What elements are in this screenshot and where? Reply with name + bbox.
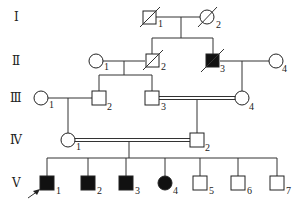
- svg-text:3: 3: [161, 101, 166, 112]
- svg-text:4: 4: [173, 185, 178, 196]
- individual-V-1: 1: [40, 176, 61, 196]
- individual-IV-2: 2: [190, 133, 210, 153]
- individual-V-2: 2: [81, 176, 102, 196]
- individual-II-2: 2: [143, 50, 166, 72]
- svg-text:6: 6: [247, 185, 252, 196]
- svg-text:4: 4: [249, 101, 254, 112]
- generation-label-4: Ⅳ: [10, 133, 23, 147]
- svg-text:1: 1: [158, 18, 163, 29]
- svg-text:1: 1: [104, 61, 109, 72]
- svg-text:2: 2: [107, 101, 112, 112]
- svg-text:3: 3: [135, 185, 140, 196]
- individual-III-1: 1: [34, 91, 54, 110]
- svg-text:2: 2: [161, 61, 166, 72]
- pedigree-chart: Ⅰ Ⅱ Ⅲ Ⅳ Ⅴ: [0, 0, 297, 208]
- svg-text:2: 2: [205, 142, 210, 153]
- svg-text:5: 5: [209, 185, 214, 196]
- generation-label-3: Ⅲ: [10, 91, 22, 105]
- individual-I-2: 2: [198, 7, 221, 30]
- svg-text:1: 1: [76, 141, 81, 152]
- union-lines-gen4: [47, 139, 277, 177]
- individual-II-1: 1: [89, 54, 109, 72]
- generation-label-2: Ⅱ: [12, 54, 20, 68]
- individual-III-3: 3: [145, 91, 166, 112]
- individual-V-4: 4: [158, 176, 178, 196]
- individual-II-4: 4: [269, 54, 287, 74]
- svg-text:4: 4: [282, 63, 287, 74]
- proband-arrow-icon: [28, 189, 40, 198]
- svg-text:2: 2: [216, 19, 221, 30]
- generation-label-1: Ⅰ: [14, 10, 19, 24]
- individual-III-2: 2: [92, 91, 112, 112]
- svg-text:7: 7: [286, 185, 291, 196]
- individual-IV-1: 1: [61, 133, 81, 152]
- individual-V-6: 6: [231, 176, 252, 196]
- individual-V-3: 3: [119, 176, 140, 196]
- individual-III-4: 4: [235, 91, 254, 112]
- individual-V-7: 7: [270, 176, 291, 196]
- svg-text:3: 3: [220, 63, 225, 74]
- union-lines-gen3: [48, 97, 235, 134]
- svg-text:1: 1: [49, 99, 54, 110]
- individual-V-5: 5: [193, 176, 214, 196]
- generation-label-5: Ⅴ: [11, 176, 21, 190]
- svg-text:2: 2: [97, 185, 102, 196]
- union-lines-gen2: [99, 61, 269, 91]
- individual-I-1: 1: [140, 7, 163, 29]
- svg-text:1: 1: [56, 185, 61, 196]
